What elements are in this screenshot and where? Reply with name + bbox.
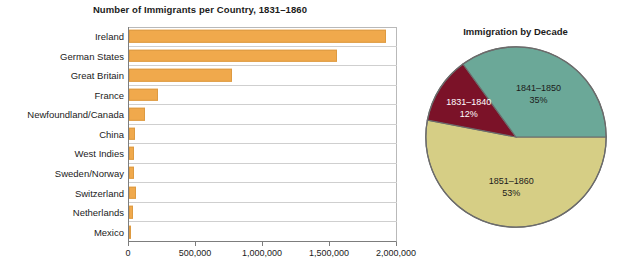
- pie-slice-percent: 53%: [502, 188, 520, 198]
- bar-chart-plot-area: IrelandGerman StatesGreat BritainFranceN…: [128, 27, 397, 242]
- bar-row: Netherlands: [129, 203, 397, 223]
- bar-row: Great Britain: [129, 66, 397, 86]
- bar-chart-x-axis: 0500,0001,000,0001,500,0002,000,000: [128, 242, 396, 264]
- bar-fill: [129, 108, 145, 121]
- bar-category-label: Ireland: [95, 31, 124, 42]
- pie-slice-label: 1851–1860: [489, 176, 534, 186]
- x-axis-tick-label: 500,000: [179, 248, 212, 258]
- bar-chart-panel: Number of Immigrants per Country, 1831–1…: [0, 0, 410, 276]
- pie-slices: [426, 47, 606, 227]
- x-axis-tick: [262, 242, 263, 246]
- bar-fill: [129, 50, 337, 63]
- bar-fill: [129, 89, 158, 102]
- bar-category-label: China: [99, 128, 124, 139]
- bar-row: German States: [129, 47, 397, 67]
- bar-row: Mexico: [129, 222, 397, 242]
- pie-chart-panel: Immigration by Decade 1851–186053%1831–1…: [410, 0, 621, 276]
- bar-category-label: West Indies: [75, 148, 124, 159]
- bar-category-label: German States: [60, 50, 124, 61]
- x-axis-tick: [329, 242, 330, 246]
- x-axis-tick-label: 0: [125, 248, 130, 258]
- bar-row: France: [129, 86, 397, 106]
- bar-row: West Indies: [129, 144, 397, 164]
- pie-slice-percent: 35%: [529, 95, 547, 105]
- bar-row: Sweden/Norway: [129, 164, 397, 184]
- bar-row: Ireland: [129, 27, 397, 47]
- bar-fill: [129, 167, 134, 180]
- x-axis-tick-label: 1,000,000: [242, 248, 282, 258]
- bar-fill: [129, 226, 131, 239]
- bar-fill: [129, 69, 232, 82]
- bar-category-label: Newfoundland/Canada: [27, 109, 124, 120]
- bar-fill: [129, 186, 136, 199]
- bar-category-label: Mexico: [94, 227, 124, 238]
- immigration-figure: Number of Immigrants per Country, 1831–1…: [0, 0, 621, 276]
- pie-slice-label: 1841–1850: [516, 83, 561, 93]
- bar-fill: [129, 128, 135, 141]
- bar-category-label: Switzerland: [75, 187, 124, 198]
- bar-category-label: France: [94, 89, 124, 100]
- x-axis-tick: [396, 242, 397, 246]
- bar-category-label: Netherlands: [73, 207, 124, 218]
- bar-fill: [129, 206, 133, 219]
- pie-chart-title: Immigration by Decade: [410, 26, 621, 37]
- pie-slice-percent: 12%: [460, 109, 478, 119]
- bar-row: Newfoundland/Canada: [129, 105, 397, 125]
- bar-row: Switzerland: [129, 183, 397, 203]
- bar-fill: [129, 147, 134, 160]
- x-axis-tick: [195, 242, 196, 246]
- pie-slice-label: 1831–1840: [446, 97, 491, 107]
- bar-category-label: Sweden/Norway: [55, 167, 124, 178]
- bar-category-label: Great Britain: [71, 70, 124, 81]
- bar-rows: IrelandGerman StatesGreat BritainFranceN…: [129, 27, 397, 242]
- bar-chart-title: Number of Immigrants per Country, 1831–1…: [0, 4, 400, 15]
- bar-row: China: [129, 125, 397, 145]
- bar-fill: [129, 30, 386, 43]
- x-axis-tick: [128, 242, 129, 246]
- pie-chart-svg: 1851–186053%1831–184012%1841–185035%: [423, 44, 609, 230]
- x-axis-tick-label: 1,500,000: [309, 248, 349, 258]
